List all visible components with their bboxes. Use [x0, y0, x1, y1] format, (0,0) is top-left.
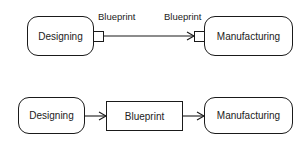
top-input-pin-label: Blueprint: [164, 11, 202, 22]
bottom-blueprint-label: Blueprint: [125, 111, 164, 122]
top-manufacturing-action[interactable]: Manufacturing: [204, 16, 293, 56]
bottom-designing-label: Designing: [29, 110, 73, 121]
bottom-manufacturing-action[interactable]: Manufacturing: [204, 97, 293, 134]
bottom-edge-designing-to-blueprint: [85, 112, 106, 120]
diagram-canvas: Designing Blueprint Blueprint Manufactur…: [0, 0, 308, 145]
top-designing-output-pin[interactable]: [93, 31, 104, 42]
bottom-manufacturing-label: Manufacturing: [217, 110, 280, 121]
bottom-designing-action[interactable]: Designing: [18, 97, 85, 134]
top-designing-action[interactable]: Designing: [27, 16, 94, 56]
top-object-flow-edge: [103, 32, 194, 40]
top-manufacturing-label: Manufacturing: [217, 31, 280, 42]
top-designing-label: Designing: [38, 31, 82, 42]
bottom-edge-blueprint-to-manufacturing: [183, 112, 204, 120]
top-output-pin-label: Blueprint: [98, 11, 136, 22]
bottom-blueprint-object[interactable]: Blueprint: [106, 101, 183, 131]
